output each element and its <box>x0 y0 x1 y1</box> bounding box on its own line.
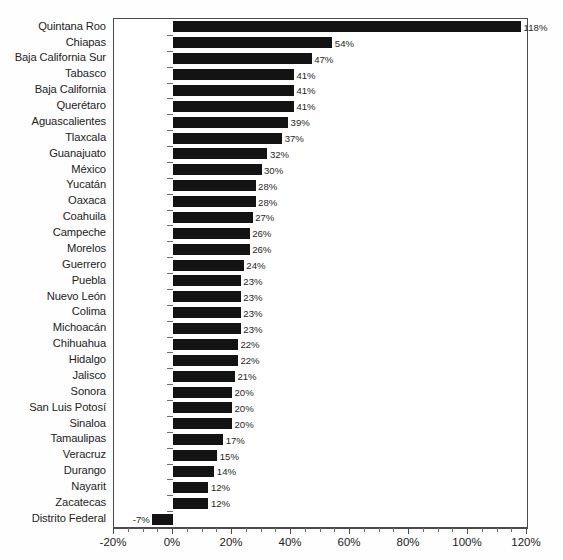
bar-value-label: 17% <box>226 435 245 446</box>
bar <box>173 275 241 286</box>
category-label: Nayarit <box>0 481 106 493</box>
bar-value-label: 20% <box>235 403 254 414</box>
plot-frame: 118%54%47%41%41%41%39%37%32%30%28%28%27%… <box>113 18 528 528</box>
category-tick <box>167 98 173 99</box>
bar <box>173 117 288 128</box>
x-tick-minor <box>334 528 335 532</box>
category-tick <box>167 114 173 115</box>
category-tick <box>167 352 173 353</box>
bar <box>173 196 256 207</box>
bar <box>173 244 250 255</box>
bar <box>173 21 521 32</box>
bar-value-label: 26% <box>252 244 271 255</box>
x-tick-minor <box>497 528 498 532</box>
bar-value-label: 39% <box>291 117 310 128</box>
category-label: San Luis Potosí <box>0 402 106 414</box>
x-axis-tick-label: 40% <box>260 536 320 549</box>
bar-value-label: 22% <box>240 355 259 366</box>
bar <box>173 101 294 112</box>
bar <box>173 307 241 318</box>
category-label: Yucatán <box>0 179 106 191</box>
bar <box>173 37 332 48</box>
x-tick-major <box>231 528 232 534</box>
bar <box>173 355 238 366</box>
category-label: Jalisco <box>0 370 106 382</box>
x-axis-tick-label: 120% <box>496 536 556 549</box>
bar <box>173 402 232 413</box>
category-tick <box>167 83 173 84</box>
category-tick <box>167 400 173 401</box>
category-tick <box>167 178 173 179</box>
bar-value-label: 41% <box>296 101 315 112</box>
category-label: Colima <box>0 306 106 318</box>
x-tick-minor <box>246 528 247 532</box>
bar-value-label: 27% <box>255 212 274 223</box>
x-tick-minor <box>438 528 439 532</box>
category-label: Hidalgo <box>0 354 106 366</box>
bar <box>173 387 232 398</box>
bar-value-label: 21% <box>237 371 256 382</box>
bar-value-label: 28% <box>258 197 277 208</box>
x-tick-minor <box>187 528 188 532</box>
category-label: México <box>0 164 106 176</box>
bar-value-label: -7% <box>133 514 150 525</box>
category-tick <box>167 289 173 290</box>
bar-value-label: 32% <box>270 149 289 160</box>
bar <box>173 498 208 509</box>
bar <box>173 450 217 461</box>
bar <box>173 482 208 493</box>
category-tick <box>167 51 173 52</box>
bar-value-label: 30% <box>264 165 283 176</box>
x-axis-tick-label: -20% <box>83 536 143 549</box>
bar-value-label: 22% <box>240 339 259 350</box>
bar <box>173 434 223 445</box>
category-label: Coahuila <box>0 211 106 223</box>
bar-value-label: 54% <box>335 38 354 49</box>
x-tick-minor <box>216 528 217 532</box>
category-label: Oaxaca <box>0 195 106 207</box>
x-tick-minor <box>320 528 321 532</box>
bar-value-label: 26% <box>252 228 271 239</box>
bar-chart: Quintana RooChiapasBaja California SurTa… <box>0 0 563 560</box>
category-tick <box>167 225 173 226</box>
category-label: Nuevo León <box>0 291 106 303</box>
category-tick <box>167 241 173 242</box>
x-tick-major <box>290 528 291 534</box>
bar <box>173 53 312 64</box>
category-tick <box>167 511 173 512</box>
category-label: Guanajuato <box>0 148 106 160</box>
bar <box>173 466 214 477</box>
bar-value-label: 20% <box>235 387 254 398</box>
bar <box>173 418 232 429</box>
x-tick-major <box>113 528 114 534</box>
category-tick <box>167 257 173 258</box>
x-tick-major <box>526 528 527 534</box>
bar <box>173 371 235 382</box>
bar <box>173 148 267 159</box>
x-tick-minor <box>511 528 512 532</box>
bar-value-label: 20% <box>235 419 254 430</box>
bar-value-label: 118% <box>524 22 548 33</box>
bar <box>173 85 294 96</box>
category-tick <box>167 337 173 338</box>
bar-value-label: 12% <box>211 498 230 509</box>
category-label: Aguascalientes <box>0 116 106 128</box>
bar-value-label: 28% <box>258 181 277 192</box>
x-tick-minor <box>143 528 144 532</box>
category-label: Puebla <box>0 275 106 287</box>
category-tick <box>167 464 173 465</box>
bar <box>173 228 250 239</box>
category-tick <box>167 305 173 306</box>
x-axis-tick-label: 80% <box>378 536 438 549</box>
x-tick-minor <box>275 528 276 532</box>
category-label: Sinaloa <box>0 418 106 430</box>
category-label: Guerrero <box>0 259 106 271</box>
x-axis-tick-label: 100% <box>437 536 497 549</box>
bar-value-label: 37% <box>285 133 304 144</box>
category-tick <box>167 321 173 322</box>
x-tick-minor <box>128 528 129 532</box>
bar <box>173 133 282 144</box>
bar <box>173 212 253 223</box>
category-tick <box>167 273 173 274</box>
x-tick-minor <box>261 528 262 532</box>
